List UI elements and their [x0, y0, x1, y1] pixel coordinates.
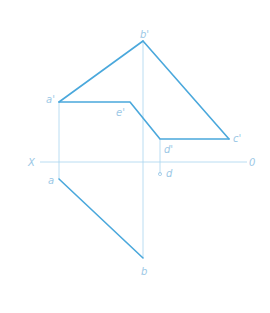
edge-a-prime-e-prime-d-prime-c-prime [59, 102, 229, 139]
label-c-prime: c' [233, 133, 241, 144]
label-b-prime: b' [140, 29, 149, 40]
label-d: d [166, 168, 173, 179]
label-d-prime: d' [164, 144, 173, 155]
edge-a-prime-b-prime [59, 41, 143, 102]
label-axis-0: 0 [249, 157, 255, 168]
edge-a-b [59, 179, 143, 258]
label-e-prime: e' [116, 107, 125, 118]
label-b: b [141, 266, 147, 277]
label-a-prime: a' [46, 94, 55, 105]
label-a: a [48, 175, 54, 186]
label-axis-x: X [27, 157, 36, 168]
orthographic-projection-diagram: X 0 b' a' e' d' c' a d b [0, 0, 270, 313]
edge-b-prime-c-prime [143, 41, 229, 139]
